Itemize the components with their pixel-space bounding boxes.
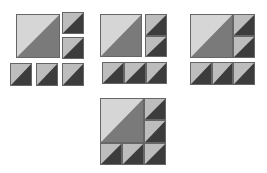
small-half-square-triangle xyxy=(146,62,167,84)
small-half-square-triangle xyxy=(144,98,166,120)
small-half-square-triangle xyxy=(62,12,84,34)
small-half-square-triangle xyxy=(122,143,144,165)
small-half-square-triangle xyxy=(144,143,166,165)
small-half-square-triangle xyxy=(124,62,146,84)
small-half-square-triangle xyxy=(233,62,255,85)
small-half-square-triangle xyxy=(233,36,255,58)
small-half-square-triangle xyxy=(10,63,32,86)
small-half-square-triangle xyxy=(62,37,84,59)
small-half-square-triangle xyxy=(100,143,122,165)
small-half-square-triangle xyxy=(102,62,124,84)
large-half-square-triangle xyxy=(100,98,144,143)
large-half-square-triangle xyxy=(190,14,233,58)
small-half-square-triangle xyxy=(212,62,233,85)
small-half-square-triangle xyxy=(36,63,58,86)
small-half-square-triangle xyxy=(233,14,255,36)
small-half-square-triangle xyxy=(145,14,167,36)
large-half-square-triangle xyxy=(100,14,142,57)
small-half-square-triangle xyxy=(144,120,166,143)
large-half-square-triangle xyxy=(16,14,60,58)
small-half-square-triangle xyxy=(145,36,167,57)
small-half-square-triangle xyxy=(62,63,84,86)
small-half-square-triangle xyxy=(190,62,212,85)
